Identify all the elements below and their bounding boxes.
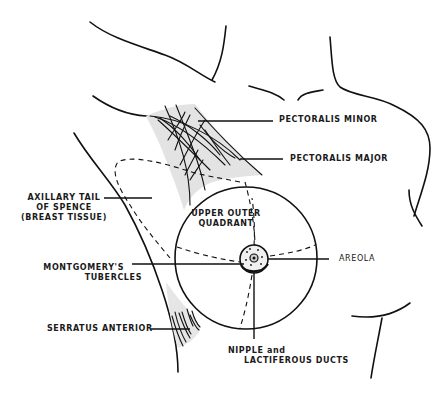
label-upper-outer-quadrant: UPPER OUTER QUADRANT — [186, 209, 266, 229]
label-nipple-line1: NIPPLE and — [228, 346, 349, 356]
label-nipple: NIPPLE and LACTIFEROUS DUCTS — [228, 346, 349, 366]
label-montgomery-line2: TUBERCLES — [40, 273, 142, 283]
areola — [240, 245, 268, 273]
label-pectoralis-major: PECTORALIS MAJOR — [290, 154, 388, 164]
label-serratus-anterior: SERRATUS ANTERIOR — [47, 324, 153, 334]
pectoralis-muscles — [146, 104, 262, 210]
label-axillary-tail-line1: AXILLARY TAIL — [14, 193, 114, 203]
label-uoq-line1: UPPER OUTER — [186, 209, 266, 219]
label-montgomerys-tubercles: MONTGOMERY'S TUBERCLES — [40, 263, 142, 283]
label-axillary-tail-line3: (BREAST TISSUE) — [14, 213, 114, 223]
label-montgomery-line1: MONTGOMERY'S — [40, 263, 142, 273]
label-nipple-line2: LACTIFEROUS DUCTS — [228, 356, 349, 366]
label-areola: AREOLA — [339, 254, 375, 264]
label-pectoralis-minor: PECTORALIS MINOR — [279, 115, 378, 125]
label-axillary-tail: AXILLARY TAIL OF SPENCE (BREAST TISSUE) — [14, 193, 114, 223]
label-axillary-tail-line2: OF SPENCE — [14, 203, 114, 213]
label-uoq-line2: QUADRANT — [186, 219, 266, 229]
